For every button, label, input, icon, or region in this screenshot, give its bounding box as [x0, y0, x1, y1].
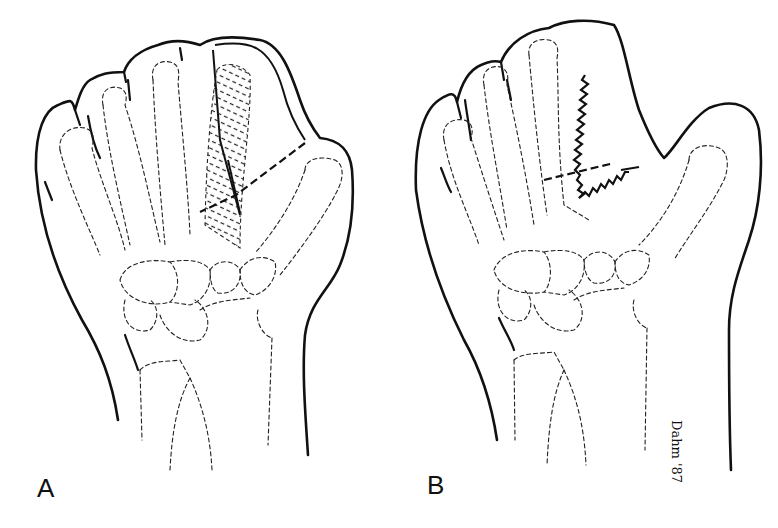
hatched-resection-area	[205, 65, 250, 248]
artist-signature: Dahm '87	[669, 420, 684, 483]
hand-drawing-b	[389, 0, 778, 528]
panel-label-b: B	[427, 472, 444, 498]
zigzag-suture-line	[574, 75, 588, 198]
panel-label-a: A	[37, 475, 54, 501]
skin-outline	[416, 21, 761, 470]
hand-drawing-a	[0, 0, 389, 528]
skin-outline	[36, 38, 353, 455]
panel-a-illustration	[0, 0, 389, 528]
panel-b-illustration	[389, 0, 778, 528]
